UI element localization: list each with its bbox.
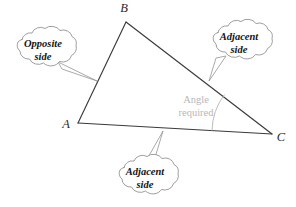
vertex-label-c: C [277, 130, 286, 144]
opposite-side-callout-tail [58, 62, 97, 81]
adjacent-side-callout-top: Adjacent side [209, 19, 272, 81]
geometry-figure: Angle required A B C Opposite side Adjac… [0, 0, 296, 207]
triangle-side-ac [78, 123, 272, 134]
adjacent-side-callout-top-tail [209, 56, 226, 81]
triangle-side-ab [78, 22, 126, 123]
vertex-label-a: A [61, 117, 70, 131]
adjacent-side-callout-bottom-line2: side [136, 179, 154, 190]
adjacent-side-callout-top-line2: side [230, 44, 248, 55]
opposite-side-callout: Opposite side [17, 26, 97, 81]
vertex-label-b: B [120, 1, 128, 15]
adjacent-side-callout-bottom-line1: Adjacent [125, 166, 166, 177]
angle-arc-at-c [212, 95, 225, 131]
opposite-side-callout-line1: Opposite [24, 38, 62, 49]
adjacent-side-callout-bottom: Adjacent side [119, 131, 178, 194]
angle-required-line1: Angle [183, 94, 209, 105]
opposite-side-callout-line2: side [34, 51, 52, 62]
adjacent-side-callout-top-line1: Adjacent [219, 31, 260, 42]
angle-required-line2: required [179, 107, 215, 118]
figure-canvas: Angle required A B C Opposite side Adjac… [0, 0, 296, 207]
angle-required-label: Angle required [179, 94, 215, 118]
